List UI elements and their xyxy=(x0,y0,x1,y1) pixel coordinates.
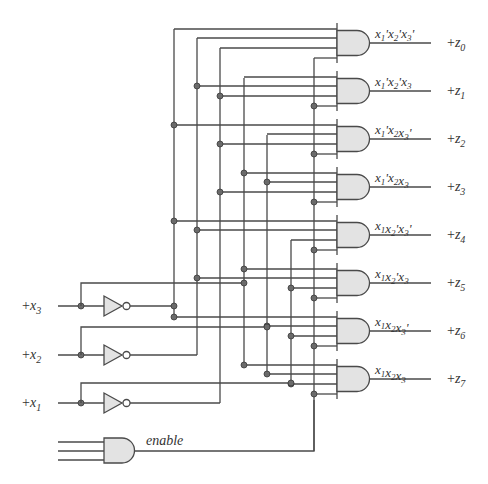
and-gate-body xyxy=(337,31,370,56)
label-sub: 7 xyxy=(460,378,466,389)
inverter-triangle xyxy=(104,393,122,413)
label-prefix: + xyxy=(447,35,455,50)
inverter-bubble xyxy=(123,400,130,407)
label-prefix: + xyxy=(447,179,455,194)
label-prefix: + xyxy=(447,131,455,146)
label-prefix: + xyxy=(447,83,455,98)
output-label: +z5 xyxy=(447,275,465,293)
and-gate-6: x1x2x3'+z6 xyxy=(337,311,465,351)
label-sub: 3 xyxy=(35,305,41,316)
label-sub: 2 xyxy=(36,354,41,365)
sub: 3 xyxy=(403,276,409,286)
and-gate-7: x1x2x3+z7 xyxy=(337,359,466,399)
junction-dot xyxy=(311,343,317,349)
label-sub: 6 xyxy=(460,330,465,341)
junction-dot xyxy=(264,371,270,377)
junction-dot xyxy=(194,227,200,233)
prime: ' xyxy=(406,320,409,335)
and-gate-body xyxy=(337,223,370,248)
and-gate-body xyxy=(337,175,370,200)
label-sub: 4 xyxy=(460,234,465,245)
output-label: +z2 xyxy=(447,131,465,149)
minterm-label: x1x2x3' xyxy=(374,314,409,337)
junction-dot xyxy=(288,380,294,386)
decoder-diagram: +x3+x2+x1enablex1'x2'x3'+z0x1'x2'x3+z1x1… xyxy=(0,0,488,484)
output-label: +z7 xyxy=(447,371,466,389)
label-prefix: + xyxy=(22,347,30,362)
and-gate-body xyxy=(337,127,370,152)
label-sub: 1 xyxy=(460,90,465,101)
junction-dot xyxy=(288,285,294,291)
junction-dot xyxy=(264,179,270,185)
junction-dot xyxy=(288,333,294,339)
junction-dot xyxy=(194,83,200,89)
junction-dot xyxy=(241,362,247,368)
output-label: +z3 xyxy=(447,179,465,197)
minterm-label: x1'x2'x3 xyxy=(374,74,412,91)
junction-dot xyxy=(217,189,223,195)
label-prefix: + xyxy=(22,298,30,313)
label-prefix: + xyxy=(447,371,455,386)
output-label: +z1 xyxy=(447,83,465,101)
prime: ' xyxy=(409,125,412,140)
junction-dot xyxy=(311,295,317,301)
junction-dot xyxy=(311,247,317,253)
label-prefix: + xyxy=(447,275,455,290)
label-sub: 3 xyxy=(459,186,465,197)
and-gate-body xyxy=(337,79,370,104)
minterm-label: x1x2x3 xyxy=(374,362,406,385)
inverter-bubble xyxy=(123,303,130,310)
junction-dot xyxy=(311,103,317,109)
junction-dot xyxy=(241,170,247,176)
and-gate-3: x1'x2x3+z3 xyxy=(337,167,465,207)
and-gate-body xyxy=(337,319,370,344)
prime: ' xyxy=(411,26,414,41)
junction-dot xyxy=(171,314,177,320)
label-prefix: + xyxy=(447,227,455,242)
sub: 3 xyxy=(403,180,409,190)
label-prefix: + xyxy=(22,395,30,410)
label-sub: 2 xyxy=(460,138,465,149)
and-gate-5: x1x2'x3+z5 xyxy=(337,263,465,303)
output-label: +z6 xyxy=(447,323,465,341)
input-label-x2: +x2 xyxy=(22,347,41,365)
inverter-triangle xyxy=(104,345,122,365)
junction-dot xyxy=(264,324,270,330)
and-gate-body xyxy=(337,271,370,296)
enable-and-gate xyxy=(104,438,135,463)
sub: 3 xyxy=(400,375,406,385)
input-label-x3: +x3 xyxy=(22,298,41,316)
label-sub: 0 xyxy=(460,42,465,53)
and-gate-2: x1'x2x3'+z2 xyxy=(337,119,465,159)
junction-dot xyxy=(194,275,200,281)
label-sub: 1 xyxy=(36,402,41,413)
inverter-bubble xyxy=(123,352,130,359)
junction-dot xyxy=(171,122,177,128)
junction-dot xyxy=(241,266,247,272)
enable-label: enable xyxy=(146,433,183,448)
and-gate-1: x1'x2'x3+z1 xyxy=(337,71,465,111)
and-gate-body xyxy=(337,367,370,392)
junction-dot xyxy=(171,303,177,309)
minterm-label: x1'x2'x3' xyxy=(374,26,414,43)
prime: ' xyxy=(409,221,412,236)
junction-dot xyxy=(171,218,177,224)
output-label: +z4 xyxy=(447,227,465,245)
junction-dot xyxy=(311,199,317,205)
junction-dot xyxy=(241,280,247,286)
and-gate-4: x1x2'x3'+z4 xyxy=(337,215,465,255)
label-sub: 5 xyxy=(460,282,465,293)
junction-dot xyxy=(311,151,317,157)
junction-dot xyxy=(217,93,223,99)
junction-dot xyxy=(311,391,317,397)
label-prefix: + xyxy=(447,323,455,338)
input-label-x1: +x1 xyxy=(22,395,41,413)
decoder-circuit: +x3+x2+x1enablex1'x2'x3'+z0x1'x2'x3+z1x1… xyxy=(0,0,488,484)
junction-dot xyxy=(217,141,223,147)
inverter-triangle xyxy=(104,296,122,316)
output-label: +z0 xyxy=(447,35,465,53)
and-gate-0: x1'x2'x3'+z0 xyxy=(337,23,465,63)
sub: 3 xyxy=(406,81,412,91)
